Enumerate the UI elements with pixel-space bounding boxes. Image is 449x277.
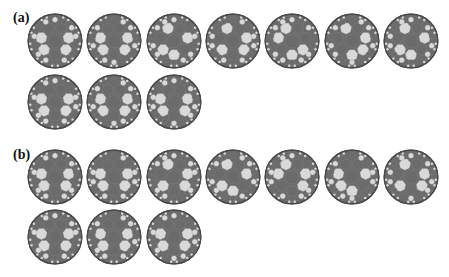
hyperbolic-tiling-disk xyxy=(324,149,380,205)
hyperbolic-tiling-disk xyxy=(146,209,202,265)
hyperbolic-tiling-disk xyxy=(27,74,83,130)
hyperbolic-tiling-disk xyxy=(146,74,202,130)
hyperbolic-tiling-disk xyxy=(383,149,439,205)
hyperbolic-tiling-disk xyxy=(146,13,202,69)
hyperbolic-tiling-disk xyxy=(264,13,320,69)
hyperbolic-tiling-disk xyxy=(27,209,83,265)
hyperbolic-tiling-disk xyxy=(86,13,142,69)
hyperbolic-tiling-disk xyxy=(27,149,83,205)
hyperbolic-tiling-disk xyxy=(86,74,142,130)
hyperbolic-tiling-disk xyxy=(264,149,320,205)
hyperbolic-tiling-disk xyxy=(324,13,380,69)
hyperbolic-tiling-disk xyxy=(383,13,439,69)
hyperbolic-tiling-disk xyxy=(86,209,142,265)
hyperbolic-tiling-disk xyxy=(86,149,142,205)
hyperbolic-tiling-disk xyxy=(205,13,261,69)
hyperbolic-tiling-disk xyxy=(205,149,261,205)
hyperbolic-tiling-disk xyxy=(146,149,202,205)
hyperbolic-tiling-disk xyxy=(27,13,83,69)
